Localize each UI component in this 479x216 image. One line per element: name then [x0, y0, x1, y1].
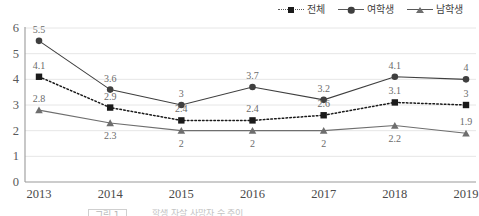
x-tick-label: 2016	[240, 188, 265, 201]
legend-item-yeohaksaeng[interactable]: 여학생	[338, 5, 394, 15]
legend-label-jeonche: 전체	[307, 5, 325, 15]
data-point-marker	[36, 74, 42, 80]
x-axis: 2013201420152016201720182019	[0, 188, 479, 206]
data-point-marker	[392, 99, 398, 105]
data-point-marker	[36, 38, 43, 45]
figure-caption: 그림 1 학생 자살 사망자 수 추이	[0, 209, 479, 216]
legend-swatch-triangle-icon	[407, 5, 433, 15]
chart-legend: 전체 여학생 남학생	[278, 1, 478, 19]
x-tick-label: 2018	[382, 188, 407, 201]
x-tick-label: 2017	[311, 188, 336, 201]
data-point-marker	[463, 102, 469, 108]
figure-caption-text: 학생 자살 사망자 수 추이	[152, 209, 243, 216]
legend-item-namhaksaeng[interactable]: 남학생	[407, 5, 463, 15]
x-tick-label: 2013	[27, 188, 52, 201]
data-point-marker	[249, 117, 255, 123]
figure-caption-badge: 그림 1	[88, 209, 127, 216]
line-chart: 전체 여학생 남학생 0123456 4.12.92.42.42.63.135.…	[0, 0, 479, 216]
data-point-marker	[392, 73, 399, 80]
data-point-marker	[35, 107, 43, 114]
data-point-marker	[178, 117, 184, 123]
data-point-marker	[320, 97, 327, 104]
x-tick-label: 2019	[454, 188, 479, 201]
data-series-layer	[0, 22, 479, 186]
data-point-marker	[320, 112, 326, 118]
data-point-marker	[107, 86, 114, 93]
series-line	[39, 41, 466, 105]
x-tick-label: 2015	[169, 188, 194, 201]
legend-swatch-circle-icon	[338, 5, 364, 15]
legend-item-jeonche[interactable]: 전체	[278, 5, 325, 15]
data-point-marker	[463, 76, 470, 83]
data-point-marker	[107, 104, 113, 110]
x-tick-label: 2014	[98, 188, 123, 201]
plot-area: 0123456 4.12.92.42.42.63.135.53.633.73.2…	[0, 22, 479, 186]
legend-swatch-square-icon	[278, 5, 304, 15]
series-line	[39, 77, 466, 121]
data-point-marker	[178, 102, 185, 109]
legend-label-yeohaksaeng: 여학생	[367, 5, 394, 15]
data-point-marker	[249, 84, 256, 91]
legend-label-namhaksaeng: 남학생	[436, 5, 463, 15]
